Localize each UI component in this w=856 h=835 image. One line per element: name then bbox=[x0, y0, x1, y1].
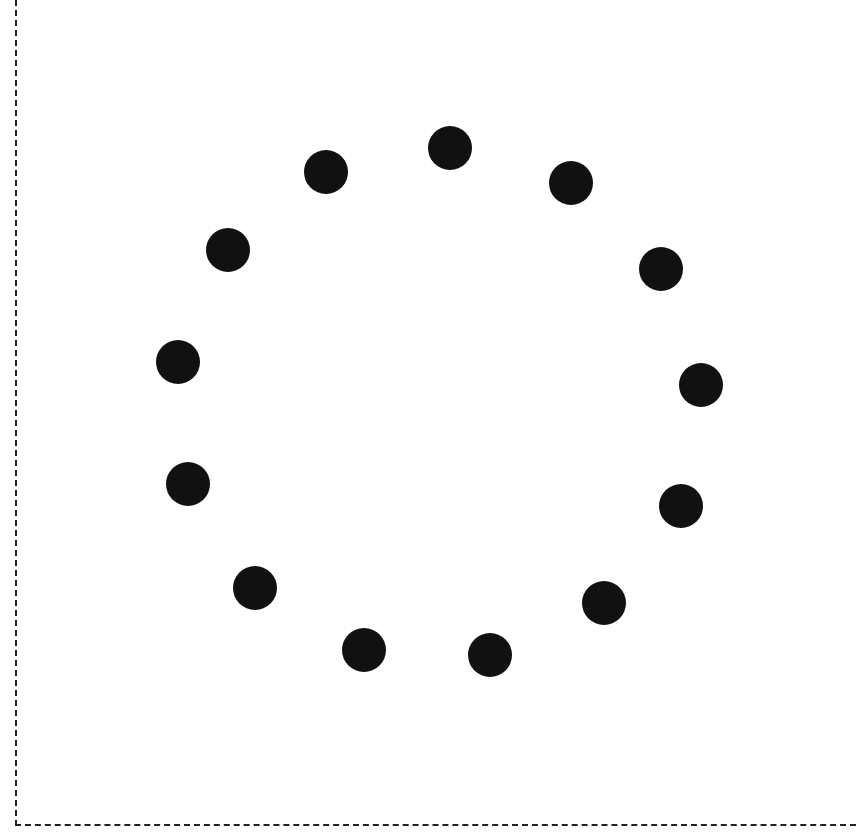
circle-dot bbox=[304, 150, 348, 194]
circle-dot bbox=[639, 247, 683, 291]
circle-dot bbox=[233, 566, 277, 610]
circle-dot bbox=[206, 228, 250, 272]
dot-ring-canvas bbox=[0, 0, 856, 835]
circle-dot bbox=[428, 126, 472, 170]
circle-dot bbox=[156, 340, 200, 384]
circle-dot bbox=[166, 462, 210, 506]
circle-dot bbox=[679, 363, 723, 407]
circle-dot bbox=[659, 484, 703, 528]
circle-dot bbox=[549, 161, 593, 205]
circle-dot bbox=[468, 633, 512, 677]
circle-dot bbox=[582, 581, 626, 625]
circle-dot bbox=[342, 628, 386, 672]
